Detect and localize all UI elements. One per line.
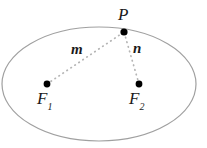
ellipse-figure: P m n F1 F2 — [0, 0, 207, 148]
point-F1-dot — [44, 81, 51, 88]
point-F1-label: F1 — [37, 90, 52, 110]
segment-m-label: m — [71, 42, 83, 57]
segment-m-focal-radius — [47, 32, 124, 84]
point-F2-letter: F — [129, 89, 139, 108]
ellipse-outline — [2, 27, 196, 141]
point-P-dot — [120, 28, 127, 35]
point-F1-subscript: 1 — [47, 101, 52, 112]
point-F2-subscript: 2 — [139, 101, 144, 112]
point-F2-dot — [136, 81, 143, 88]
figure-drawing-area — [0, 0, 207, 148]
segment-n-label: n — [133, 41, 141, 56]
point-F2-label: F2 — [129, 90, 144, 110]
point-P-label: P — [118, 6, 128, 23]
point-F1-letter: F — [37, 89, 47, 108]
